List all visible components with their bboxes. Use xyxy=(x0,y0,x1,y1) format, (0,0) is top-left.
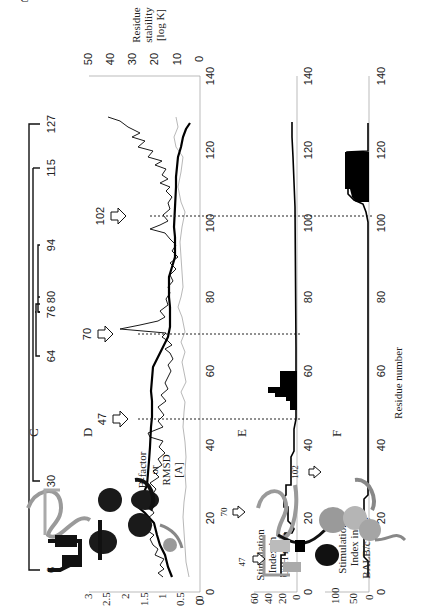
ytick: 50 xyxy=(82,53,94,65)
dendro-label: 94 xyxy=(45,239,57,251)
arrow-down-icon xyxy=(113,411,128,427)
xtick: 140 xyxy=(302,67,314,85)
x-axis-label: Residue number xyxy=(392,347,404,419)
ytick: 20 xyxy=(148,53,160,65)
yaxis-label: [log K] xyxy=(154,9,166,41)
xtick: 120 xyxy=(204,141,216,159)
yaxis-label: stability xyxy=(142,7,154,43)
xtick: 80 xyxy=(375,291,387,303)
xtick: 40 xyxy=(302,439,314,451)
panel-d-right-axis: 0 10 20 30 40 50 Residue stability [log … xyxy=(82,7,205,65)
ytick: 40 xyxy=(104,53,116,65)
figure-svg: C 6 30 64 76 80 94 115 127 xyxy=(0,0,436,607)
xtick: 120 xyxy=(375,141,387,159)
xtick: 80 xyxy=(302,291,314,303)
ytick: 0 xyxy=(194,599,206,605)
xtick: 100 xyxy=(302,214,314,232)
xtick: 60 xyxy=(204,365,216,377)
arrow-label-70: 70 xyxy=(81,328,93,340)
panel-d-arrows: 47 70 102 xyxy=(81,207,128,427)
xtick: 0 xyxy=(204,589,216,595)
xtick: 20 xyxy=(204,512,216,524)
panel-d-left-axis: 0 xyxy=(194,599,206,605)
xtick: 60 xyxy=(302,365,314,377)
ytick: 10 xyxy=(171,53,183,65)
arrow-label-102: 102 xyxy=(94,207,106,225)
figure-canvas: C 6 30 64 76 80 94 115 127 xyxy=(0,0,436,607)
xtick: 0 xyxy=(302,589,314,595)
dendro-label: 6 xyxy=(45,567,57,573)
arrow-label-47: 47 xyxy=(96,413,108,425)
yaxis-label: Residue xyxy=(130,7,142,43)
ytick: 30 xyxy=(126,53,138,65)
xtick: 60 xyxy=(375,365,387,377)
dendrogram-labels: 6 30 64 76 80 94 115 127 xyxy=(45,115,57,573)
xtick: 40 xyxy=(204,439,216,451)
xtick: 40 xyxy=(375,439,387,451)
xtick: 0 xyxy=(375,589,387,595)
panel-d-chart xyxy=(89,76,372,592)
dendro-label: 64 xyxy=(45,350,57,362)
dendro-label: 127 xyxy=(45,115,57,133)
xtick: 100 xyxy=(204,214,216,232)
dendrogram xyxy=(29,124,40,570)
dendro-label: 80 xyxy=(45,291,57,303)
xtick: 140 xyxy=(375,67,387,85)
xtick: 20 xyxy=(375,512,387,524)
dendro-label: 30 xyxy=(45,475,57,487)
arrow-down-icon xyxy=(111,208,126,224)
dendro-label: 115 xyxy=(45,159,57,177)
arrow-down-icon xyxy=(98,326,113,342)
xtick: 120 xyxy=(302,141,314,159)
panel-f-chart xyxy=(325,76,369,592)
panel-label-c: C xyxy=(20,0,29,5)
xtick: 140 xyxy=(204,67,216,85)
xtick: 100 xyxy=(375,214,387,232)
ytick: 0 xyxy=(193,56,205,62)
dendro-label: 76 xyxy=(45,306,57,318)
xtick: 20 xyxy=(302,512,314,524)
xtick: 80 xyxy=(204,291,216,303)
